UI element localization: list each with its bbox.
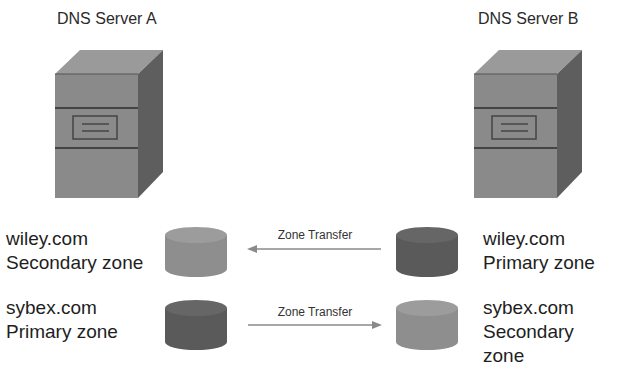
zone-type: Secondary zone [6, 251, 143, 275]
zone-domain: wiley.com [483, 227, 595, 251]
arrow-right-icon [247, 320, 382, 330]
zone-domain: sybex.com [483, 296, 620, 320]
zone-domain: wiley.com [6, 227, 143, 251]
server-b-icon [165, 48, 275, 198]
zone-type: Secondary zone [483, 320, 620, 366]
database-icon-b-wiley [395, 226, 459, 278]
server-a-title: DNS Server A [57, 10, 157, 28]
server-a-icon [55, 48, 165, 198]
transfer-label-sybex: Zone Transfer [245, 305, 385, 319]
zone-label-a-wiley: wiley.com Secondary zone [6, 227, 143, 275]
zone-domain: sybex.com [6, 296, 118, 320]
server-b-title: DNS Server B [478, 10, 578, 28]
arrow-left-icon [247, 244, 382, 254]
zone-type: Primary zone [483, 251, 595, 275]
zone-label-b-wiley: wiley.com Primary zone [483, 227, 595, 275]
zone-label-a-sybex: sybex.com Primary zone [6, 296, 118, 344]
database-icon-b-sybex [395, 299, 459, 351]
server-b-icon [474, 48, 584, 198]
zone-label-b-sybex: sybex.com Secondary zone [483, 296, 620, 366]
database-icon-a-wiley [164, 226, 228, 278]
zone-type: Primary zone [6, 320, 118, 344]
transfer-label-wiley: Zone Transfer [245, 228, 385, 242]
database-icon-a-sybex [164, 299, 228, 351]
